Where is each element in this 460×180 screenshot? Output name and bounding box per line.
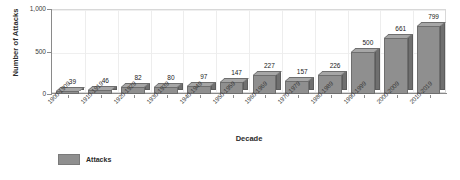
y-axis-tick-label: 500 [16,48,46,55]
x-axis-tick-labels: 1900-19091910-19191920-19291930-19391940… [52,95,446,133]
bar-side-face [440,22,445,90]
bar-side-face [375,48,380,91]
bar-top-face [351,48,379,52]
legend-label-attacks: Attacks [86,156,111,163]
bar-value-label: 799 [414,13,454,20]
bar-top-face [220,78,248,82]
bar-top-face [384,34,412,38]
bars-container: 3946828097147227157226500661799 [52,9,446,94]
chart-legend: Attacks [58,154,111,165]
y-axis-tick-mark [47,52,52,53]
bar-value-label: 226 [315,62,355,69]
bar-value-label: 661 [381,25,421,32]
x-axis-tick-mark [134,95,135,98]
y-axis-tick-mark [47,9,52,10]
bar-side-face [408,34,413,90]
y-axis-tick-mark [47,94,52,95]
x-axis-tick-mark [233,95,234,98]
x-axis-tick-mark [200,95,201,98]
bar-chart: Number of Attacks 05001,000 394682809714… [0,0,460,180]
x-axis-tick-mark [68,95,69,98]
bar-value-label: 500 [348,39,388,46]
y-axis-tick-labels: 05001,000 [16,0,46,180]
bar-value-label: 147 [217,69,257,76]
y-axis-tick-label: 0 [16,90,46,97]
y-axis-tick-label: 1,000 [16,5,46,12]
bar-top-face [417,22,445,26]
x-axis-tick-mark [430,95,431,98]
bar-top-face [318,71,346,75]
bar-top-face [253,71,281,75]
x-axis-tick-mark [167,95,168,98]
x-axis-tick-mark [397,95,398,98]
legend-swatch-attacks [58,154,80,165]
bar-top-face [285,77,313,81]
x-axis-tick-mark [265,95,266,98]
x-axis-tick-mark [364,95,365,98]
x-axis-tick-mark [101,95,102,98]
x-axis-tick-mark [331,95,332,98]
x-axis-title: Decade [52,134,446,143]
x-axis-tick-mark [298,95,299,98]
